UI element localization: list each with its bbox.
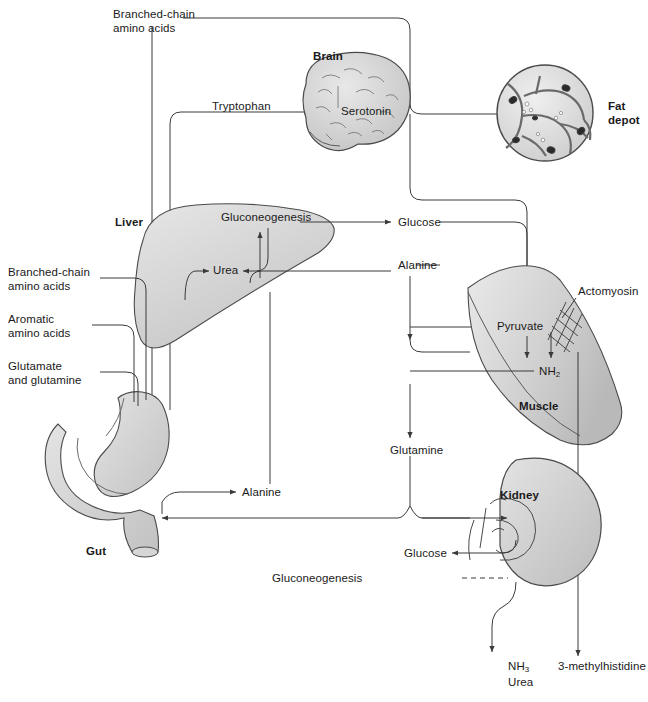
- kidney-ureter-b: [469, 520, 474, 560]
- flow-aromatic: [92, 325, 134, 402]
- label-serotonin: Serotonin: [341, 105, 391, 119]
- label-urea-liver: Urea: [213, 264, 238, 278]
- fat-depot-shape: [497, 65, 593, 161]
- label-fat-depot: Fat depot: [608, 100, 640, 127]
- label-liver: Liver: [115, 216, 143, 230]
- kidney-ureter-a: [480, 508, 486, 548]
- gut-lumen: [132, 547, 158, 557]
- flow-glutamine-cusp: [398, 506, 422, 518]
- label-glutamine: Glutamine: [390, 444, 443, 458]
- brain-shape: [303, 52, 410, 150]
- label-pyruvate: Pyruvate: [497, 320, 543, 334]
- label-alanine-gut: Alanine: [242, 486, 281, 500]
- label-gut: Gut: [86, 545, 106, 559]
- flow-kidney-to-nh3: [492, 582, 516, 652]
- label-glutamate-glutamine: Glutamate and glutamine: [8, 360, 82, 387]
- flow-muscle-alanine-a: [410, 340, 470, 352]
- diagram-canvas: [0, 0, 648, 702]
- label-3-methylhistidine: 3-methylhistidine: [558, 660, 646, 674]
- label-bcaa-top: Branched-chain amino acids: [113, 8, 195, 35]
- gut-stomach-shape: [94, 392, 169, 497]
- label-muscle: Muscle: [519, 400, 559, 414]
- label-urea-bottom: Urea: [508, 676, 533, 690]
- flow-to-fat-depot: [410, 104, 503, 114]
- label-alanine-mid: Alanine: [398, 259, 437, 273]
- label-brain: Brain: [313, 50, 343, 64]
- kidney-shape: [500, 458, 601, 586]
- label-glucose-kidney: Glucose: [404, 547, 447, 561]
- flow-gut-to-alanine: [162, 492, 236, 502]
- label-tryptophan: Tryptophan: [212, 100, 271, 114]
- label-actomyosin: Actomyosin: [578, 285, 638, 299]
- label-nh2: NH2: [539, 365, 560, 382]
- label-bcaa-left: Branched-chain amino acids: [8, 266, 90, 293]
- label-gluconeogenesis-kidney: Gluconeogenesis: [272, 572, 362, 586]
- label-kidney: Kidney: [500, 489, 539, 503]
- metabolism-diagram: Branched-chain amino acids Tryptophan Se…: [0, 0, 648, 702]
- label-aromatic-aa: Aromatic amino acids: [8, 313, 70, 340]
- label-gluconeogenesis-liver: Gluconeogenesis: [221, 211, 311, 225]
- label-glucose-liver: Glucose: [398, 216, 441, 230]
- label-nh3: NH3: [508, 660, 529, 677]
